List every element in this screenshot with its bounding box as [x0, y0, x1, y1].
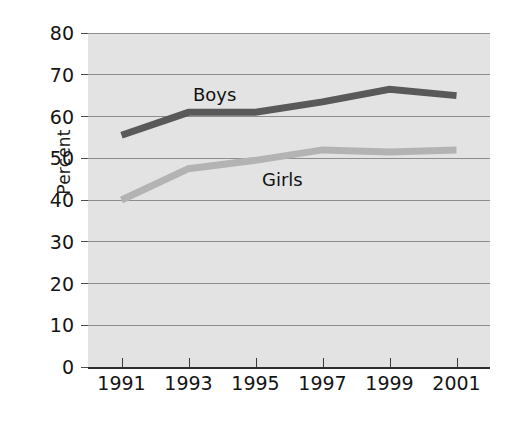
line-chart: Percent 01020304050607080 19911993199519… [0, 0, 513, 428]
series-label-boys: Boys [193, 84, 236, 105]
series-layer [0, 0, 513, 428]
series-line-boys [122, 89, 457, 135]
series-label-girls: Girls [262, 169, 303, 190]
